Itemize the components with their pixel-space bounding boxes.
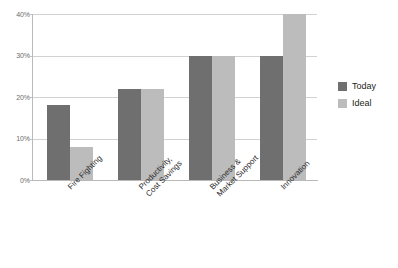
legend-item-ideal[interactable]: Ideal <box>338 95 376 112</box>
legend-swatch-today-icon <box>338 82 347 91</box>
y-axis-tick-label: 0% <box>4 177 30 184</box>
y-axis-line <box>32 14 33 181</box>
bar-group <box>260 14 306 180</box>
bar-chart: 0%10%20%30%40% Fire FightingProductivity… <box>0 0 398 268</box>
y-axis-tick-label: 10% <box>4 135 30 142</box>
chart-legend: Today Ideal <box>338 78 376 112</box>
legend-item-today[interactable]: Today <box>338 78 376 95</box>
legend-label-ideal: Ideal <box>352 99 372 108</box>
y-axis-tick-label: 20% <box>4 94 30 101</box>
bar-group <box>118 14 164 180</box>
bar-group <box>189 14 235 180</box>
bar-group <box>47 14 93 180</box>
bar-today[interactable] <box>260 56 283 181</box>
y-axis-tick-label: 40% <box>4 11 30 18</box>
y-axis-tick-labels: 0%10%20%30%40% <box>0 0 30 268</box>
bar-ideal[interactable] <box>283 14 306 180</box>
bar-today[interactable] <box>189 56 212 181</box>
legend-swatch-ideal-icon <box>338 99 347 108</box>
bar-today[interactable] <box>47 105 70 180</box>
y-axis-tick-label: 30% <box>4 52 30 59</box>
legend-label-today: Today <box>352 82 376 91</box>
bar-today[interactable] <box>118 89 141 180</box>
